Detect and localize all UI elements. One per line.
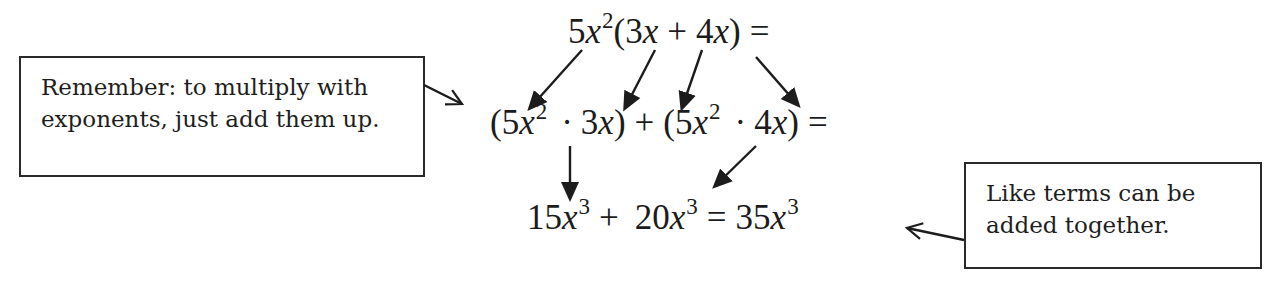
exponent: 3 <box>579 194 591 219</box>
note-text-line-1: Remember: to multiply with <box>41 72 368 102</box>
open-paren: ( <box>663 103 675 142</box>
coefficient: 4 <box>754 103 772 142</box>
close-paren: ) <box>614 103 626 142</box>
close-paren: ) <box>787 103 799 142</box>
second-product-to-20x3-arrow-icon <box>715 146 756 186</box>
note-text-line-2: added together. <box>986 210 1170 240</box>
exponent: 2 <box>709 99 721 124</box>
coefficient: 20 <box>635 198 670 237</box>
equals-sign: = <box>707 198 727 237</box>
coefficient: 3 <box>625 12 643 51</box>
plus-operator: + <box>667 12 687 51</box>
coefficient: 5 <box>568 12 586 51</box>
open-paren: ( <box>490 103 502 142</box>
variable: x <box>772 103 788 142</box>
coefficient: 15 <box>527 198 562 237</box>
variable: x <box>519 103 535 142</box>
variable: x <box>598 103 614 142</box>
equation-row-result: 15x3+20x3=35x3 <box>527 198 799 242</box>
variable: x <box>586 12 602 51</box>
variable: x <box>714 12 730 51</box>
open-paren: ( <box>614 12 626 51</box>
exponent: 3 <box>686 194 698 219</box>
note-text-line-2: exponents, just add them up. <box>41 104 379 134</box>
variable: x <box>643 12 659 51</box>
3x-to-first-group-arrow-icon <box>625 50 655 108</box>
coefficient: 3 <box>581 103 599 142</box>
variable: x <box>692 103 708 142</box>
multiply-dot: · <box>561 103 573 142</box>
note-box-like-terms: Like terms can be added together. <box>964 162 1262 269</box>
coefficient: 4 <box>696 12 714 51</box>
equals-sign: = <box>750 12 770 51</box>
note-text-line-1: Like terms can be <box>986 178 1195 208</box>
close-paren: ) <box>729 12 741 51</box>
plus-operator: + <box>599 198 619 237</box>
coefficient: 35 <box>736 198 771 237</box>
variable: x <box>670 198 686 237</box>
exponent: 3 <box>787 194 799 219</box>
plus-to-second-group-arrow-icon <box>682 50 702 108</box>
exponent: 2 <box>536 99 548 124</box>
note-box-exponent-rule: Remember: to multiply with exponents, ju… <box>19 56 425 177</box>
equals-sign: = <box>808 103 828 142</box>
equation-row-original: 5x2(3x+4x)= <box>568 12 778 56</box>
variable: x <box>562 198 578 237</box>
coefficient: 5 <box>675 103 693 142</box>
coefficient: 5 <box>502 103 520 142</box>
right-note-pointer-arrow-icon <box>907 228 964 240</box>
multiply-dot: · <box>735 103 747 142</box>
equation-row-distributed: (5x2·3x)+(5x2·4x)= <box>490 103 837 147</box>
left-note-pointer-arrow-icon <box>424 85 462 104</box>
variable: x <box>771 198 787 237</box>
plus-operator: + <box>635 103 655 142</box>
4x-to-second-group-arrow-icon <box>756 57 798 105</box>
exponent: 2 <box>602 8 614 33</box>
